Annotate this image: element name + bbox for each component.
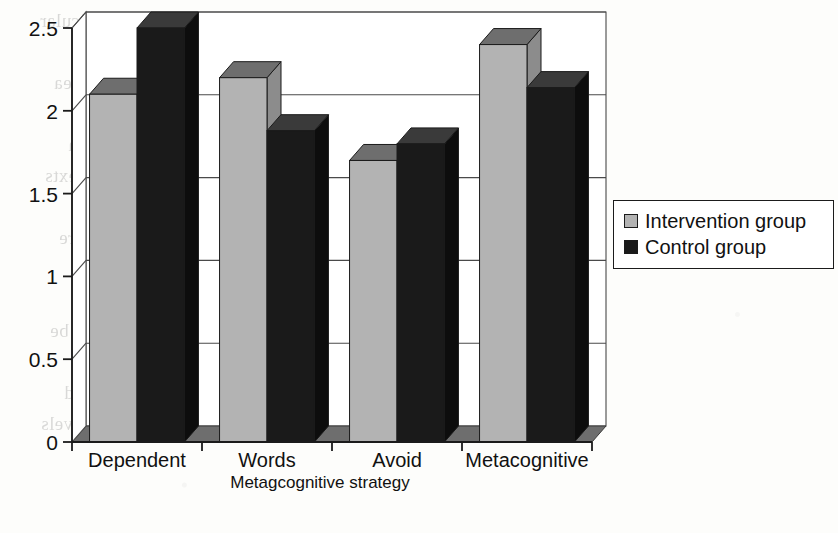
- legend-swatch-icon: [624, 240, 638, 254]
- bar: [527, 72, 588, 442]
- legend-entry: Control group: [624, 234, 824, 260]
- x-axis-tick-label: Dependent: [88, 449, 186, 472]
- legend-entry: Intervention group: [624, 208, 824, 234]
- legend-label: Intervention group: [645, 211, 806, 231]
- x-axis-tick-label: Words: [238, 449, 295, 472]
- legend-label: Control group: [645, 237, 766, 257]
- bar: [267, 115, 328, 442]
- x-axis-tick-label: Avoid: [372, 449, 422, 472]
- x-axis-title: Metagcognitive strategy: [0, 473, 640, 493]
- chart-legend: Intervention groupControl group: [613, 200, 834, 269]
- legend-swatch-icon: [624, 214, 638, 228]
- x-axis-tick-label: Metacognitive: [465, 449, 588, 472]
- bar: [137, 12, 198, 442]
- bar: [397, 128, 458, 442]
- bar-chart-figure: 00.511.522.5 DependentWordsAvoidMetacogn…: [0, 0, 838, 533]
